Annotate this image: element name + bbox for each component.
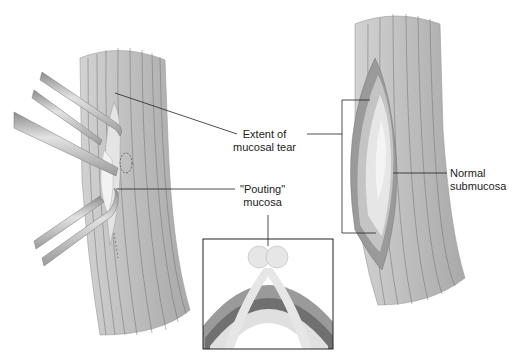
label-extent-of-tear: Extent of mucosal tear bbox=[233, 128, 296, 154]
label-line-2: mucosal tear bbox=[233, 141, 296, 154]
right-esophagus bbox=[351, 14, 466, 305]
label-line-1: Extent of bbox=[233, 128, 296, 141]
left-esophagus bbox=[80, 48, 190, 335]
diagram-canvas bbox=[0, 0, 515, 354]
label-normal-submucosa: Normal submucosa bbox=[450, 167, 506, 193]
inset-cross-section bbox=[200, 239, 340, 354]
label-line-1: Normal bbox=[450, 167, 506, 180]
label-line-2: submucosa bbox=[450, 180, 506, 193]
label-pouting-mucosa: "Pouting" mucosa bbox=[240, 183, 285, 209]
label-line-2: mucosa bbox=[240, 196, 285, 209]
label-line-1: "Pouting" bbox=[240, 183, 285, 196]
mucosa-bulge-right bbox=[266, 246, 288, 268]
